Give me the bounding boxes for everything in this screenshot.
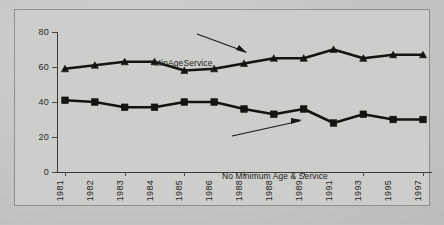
x-tick-label-4: 1985 [174,180,184,201]
y-tick-label-40: 40 [39,97,49,107]
marker-s2-1991 [330,120,337,127]
x-tick-label-10: 1993 [353,180,363,201]
marker-s2-1983 [121,104,128,111]
x-tick-label-1: 1982 [85,180,95,201]
y-tick-label-80: 80 [39,27,49,37]
y-tick-label-60: 60 [39,62,49,72]
marker-s2-1986 [211,99,218,106]
marker-s2-1988 [271,111,278,118]
marker-s2-1984 [151,104,158,111]
x-tick-label-0: 1981 [55,180,65,201]
annotation-min-age-service: MinAgeService [154,58,212,68]
x-tick-label-3: 1984 [145,180,155,201]
y-tick-label-20: 20 [39,132,49,142]
marker-s2-1995 [390,116,397,123]
series-2 [62,97,427,126]
x-tick-label-2: 1983 [115,180,125,201]
marker-s2-1985 [181,99,188,106]
y-tick-label-0: 0 [44,167,49,177]
marker-s2-1982 [92,99,99,106]
x-tick-label-5: 1986 [204,180,214,201]
x-tick-label-6: 1988 [234,180,244,201]
marker-s2-1989 [300,106,307,113]
chart-frame: 020406080 198119821983198419851986198819… [14,9,430,206]
marker-s2-1993 [360,111,367,118]
x-tick-label-12: 1997 [413,180,423,201]
marker-s2-1997 [420,116,427,123]
x-tick-label-8: 1989 [294,180,304,201]
marker-s2-1988 [241,106,248,113]
series-1 [61,46,426,74]
x-tick-label-9: 1991 [324,180,334,201]
marker-s2-1981 [62,97,69,104]
annotation-no-minimum-age-service: No Minimum Age & Service [222,171,328,181]
plot-area: 020406080 198119821983198419851986198819… [57,32,431,172]
x-tick-label-7: 1988 [264,180,274,201]
x-tick-label-11: 1995 [383,180,393,201]
series-layer [57,32,431,173]
